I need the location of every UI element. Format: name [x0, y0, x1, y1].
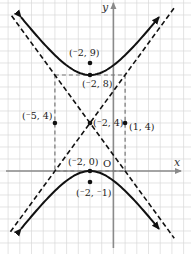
- point-vertex-top: [88, 73, 93, 78]
- label-center: (⁻2, 4): [93, 117, 124, 128]
- label-focus-bottom: (⁻2, ⁻1): [76, 187, 112, 198]
- hyperbola-graph: x y O (⁻2, 9) (⁻2, 8) (⁻5, 4) (⁻2, 4) (1…: [0, 0, 191, 254]
- label-co-vertex-right: (1, 4): [129, 121, 155, 132]
- origin-label: O: [103, 158, 111, 169]
- x-axis-label: x: [174, 156, 181, 169]
- label-vertex-bottom: (⁻2, 0): [68, 156, 99, 167]
- point-co-vertex-left: [53, 121, 58, 126]
- label-focus-top: (⁻2, 9): [69, 47, 100, 58]
- point-center: [88, 121, 93, 126]
- point-focus-top: [88, 61, 93, 66]
- label-co-vertex-left: (⁻5, 4): [22, 110, 53, 121]
- label-vertex-top: (⁻2, 8): [82, 78, 113, 89]
- y-axis-label: y: [101, 1, 109, 14]
- point-vertex-bottom: [88, 169, 93, 174]
- point-focus-bottom: [88, 180, 93, 185]
